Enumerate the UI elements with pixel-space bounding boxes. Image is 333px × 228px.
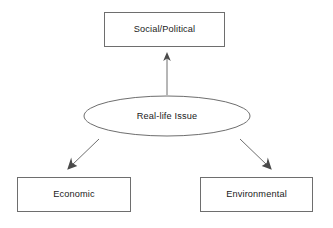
node-economic-label: Economic [53,189,95,199]
node-real-life-issue[interactable]: Real-life Issue [84,96,250,136]
node-social-political[interactable]: Social/Political [105,13,225,47]
connector-issue-to-economic [67,139,99,170]
arrowhead-down-left-icon [67,158,77,170]
node-real-life-issue-label: Real-life Issue [137,111,197,121]
connector-issue-to-environmental [240,139,272,170]
connector-issue-to-social-political [163,52,171,95]
arrowhead-down-right-icon [262,158,272,170]
node-environmental[interactable]: Environmental [201,178,313,212]
concept-map-svg: Social/Political Real-life Issue Economi… [0,0,333,228]
connector-line-down-right [240,139,268,166]
node-environmental-label: Environmental [226,189,287,199]
node-economic[interactable]: Economic [18,178,131,212]
connector-line-down-left [72,139,100,166]
diagram-canvas: Social/Political Real-life Issue Economi… [0,0,333,228]
node-social-political-label: Social/Political [134,24,196,34]
